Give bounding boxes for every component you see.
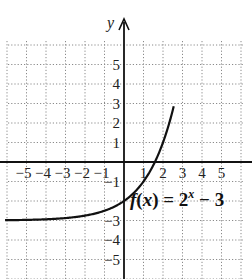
y-tick-label: −4 — [104, 232, 120, 248]
y-tick-label: 3 — [113, 96, 121, 112]
x-tick-label: 4 — [198, 165, 206, 181]
y-tick-label: 1 — [113, 135, 121, 151]
y-axis-label: y — [105, 14, 115, 32]
x-tick-label: 5 — [218, 165, 226, 181]
x-tick-label: −5 — [16, 165, 32, 181]
y-tick-label: 2 — [113, 115, 121, 131]
y-tick-label: −3 — [104, 213, 120, 229]
y-tick-label: −1 — [104, 174, 120, 190]
y-tick-label: −5 — [104, 252, 120, 268]
x-tick-label: −2 — [74, 165, 90, 181]
grid — [7, 41, 244, 279]
exponential-function-graph: −5−4−3−2−11234554321−1−3−4−5 y f(x) = 2x… — [0, 0, 252, 279]
x-tick-label: 2 — [159, 165, 167, 181]
y-tick-label: 5 — [113, 57, 121, 73]
x-tick-label: 3 — [179, 165, 187, 181]
x-tick-label: −4 — [35, 165, 51, 181]
x-tick-label: −3 — [55, 165, 71, 181]
y-tick-label: 4 — [113, 76, 121, 92]
function-label: f(x) = 2x − 3 — [130, 187, 224, 211]
